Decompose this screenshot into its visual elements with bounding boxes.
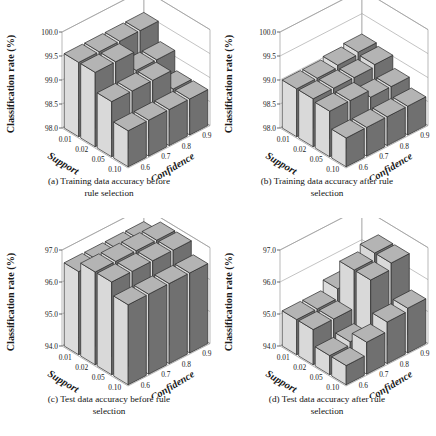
panel-b: 98.098.599.099.5100.0Classification rate…	[218, 0, 436, 218]
plot-b: 98.098.599.099.5100.0Classification rate…	[218, 0, 436, 180]
confidence-tick-label: 0.8	[400, 142, 410, 151]
support-tick-label: 0.02	[75, 363, 88, 372]
bar-face-left	[282, 80, 297, 137]
bar-face-left	[64, 263, 79, 355]
y-tick-label: 94.0	[263, 342, 276, 351]
bar-face-right	[190, 264, 208, 353]
y-tick-label: 96.0	[263, 278, 276, 287]
y-axis: 98.098.599.099.5100.0	[41, 28, 62, 133]
bar3d-canvas-b: 98.098.599.099.5100.0Classification rate…	[218, 0, 436, 180]
support-tick-label: 0.01	[59, 135, 72, 144]
confidence-tick-label: 0.7	[379, 370, 389, 379]
y-axis-title: Classification rate (%)	[223, 35, 235, 133]
support-tick-label: 0.05	[310, 155, 323, 164]
y-tick-label: 100.0	[41, 28, 58, 37]
confidence-tick-label: 0.6	[359, 163, 369, 172]
figure-3d-bar-grid: 98.098.599.099.5100.0Classification rate…	[0, 0, 436, 436]
bar-3d	[114, 287, 147, 385]
y-tick-label: 96.0	[45, 278, 58, 287]
caption-d-line1: (d) Test data accuracy after rule	[269, 394, 385, 404]
y-axis: 98.098.599.099.5100.0	[259, 28, 280, 133]
bar-face-right	[169, 274, 187, 363]
y-tick-label: 99.5	[263, 52, 276, 61]
confidence-tick-label: 0.7	[161, 152, 171, 161]
confidence-tick-label: 0.7	[161, 370, 171, 379]
plot-c: 94.095.096.097.0Classification rate (%)0…	[0, 218, 218, 398]
support-tick-label: 0.10	[326, 383, 339, 392]
panel-d: 94.095.096.097.0Classification rate (%)0…	[218, 218, 436, 436]
bar3d-canvas-d: 94.095.096.097.0Classification rate (%)0…	[218, 218, 436, 398]
caption-b-line2: selection	[311, 188, 344, 198]
bar-face-left	[114, 296, 129, 385]
y-tick-label: 95.0	[263, 310, 276, 319]
caption-b: (b) Training data accuracy after rule se…	[222, 176, 432, 199]
confidence-tick-label: 0.6	[359, 381, 369, 390]
confidence-tick-label: 0.8	[182, 360, 192, 369]
confidence-tick-label: 0.8	[182, 142, 192, 151]
y-tick-label: 98.0	[45, 124, 58, 133]
support-tick-label: 0.01	[59, 353, 72, 362]
plot-d: 94.095.096.097.0Classification rate (%)0…	[218, 218, 436, 398]
plot-a: 98.098.599.099.5100.0Classification rate…	[0, 0, 218, 180]
bar-3d	[114, 113, 147, 167]
support-tick-label: 0.05	[92, 373, 105, 382]
caption-c: (c) Test data accuracy before rule selec…	[4, 394, 214, 417]
caption-c-line2: selection	[93, 406, 126, 416]
bar-face-right	[128, 295, 146, 384]
bar-face-left	[299, 90, 314, 147]
support-tick-label: 0.02	[293, 363, 306, 372]
y-axis-title: Classification rate (%)	[5, 35, 17, 133]
bar-face-left	[81, 64, 96, 147]
confidence-tick-label: 0.7	[379, 152, 389, 161]
support-tick-label: 0.05	[92, 155, 105, 164]
bar-face-left	[97, 273, 112, 375]
support-tick-label: 0.01	[277, 353, 290, 362]
bar-face-right	[149, 285, 167, 374]
caption-b-line1: (b) Training data accuracy after rule	[261, 176, 393, 186]
confidence-tick-label: 0.6	[141, 163, 151, 172]
y-tick-label: 98.5	[45, 100, 58, 109]
support-tick-label: 0.02	[75, 145, 88, 154]
confidence-tick-label: 0.6	[141, 381, 151, 390]
caption-c-line1: (c) Test data accuracy before rule	[48, 394, 170, 404]
confidence-tick-label: 0.8	[400, 360, 410, 369]
bar-face-left	[81, 263, 96, 365]
support-tick-label: 0.10	[326, 165, 339, 174]
bar-face-left	[315, 102, 330, 156]
caption-a: (a) Training data accuracy before rule s…	[4, 176, 214, 199]
y-tick-label: 97.0	[263, 246, 276, 255]
support-tick-label: 0.01	[277, 135, 290, 144]
y-tick-label: 98.5	[263, 100, 276, 109]
panel-c: 94.095.096.097.0Classification rate (%)0…	[0, 218, 218, 436]
y-axis: 94.095.096.097.0	[263, 246, 280, 351]
y-tick-label: 99.0	[263, 76, 276, 85]
confidence-tick-label: 0.9	[420, 349, 430, 358]
caption-d: (d) Test data accuracy after rule select…	[222, 394, 432, 417]
support-tick-label: 0.05	[310, 373, 323, 382]
y-tick-label: 97.0	[45, 246, 58, 255]
caption-a-line2: rule selection	[84, 188, 133, 198]
support-tick-label: 0.10	[108, 165, 121, 174]
y-tick-label: 94.0	[45, 342, 58, 351]
bar3d-canvas-c: 94.095.096.097.0Classification rate (%)0…	[0, 218, 218, 398]
support-tick-label: 0.10	[108, 383, 121, 392]
y-axis-title: Classification rate (%)	[5, 253, 17, 351]
y-tick-label: 99.0	[45, 76, 58, 85]
y-axis: 94.095.096.097.0	[45, 246, 62, 351]
y-tick-label: 99.5	[45, 52, 58, 61]
panel-a: 98.098.599.099.5100.0Classification rate…	[0, 0, 218, 218]
confidence-tick-label: 0.9	[202, 349, 212, 358]
bar-3d	[332, 120, 365, 167]
confidence-tick-label: 0.9	[202, 131, 212, 140]
caption-d-line2: selection	[311, 406, 344, 416]
confidence-tick-label: 0.9	[420, 131, 430, 140]
y-tick-label: 95.0	[45, 310, 58, 319]
y-tick-label: 98.0	[263, 124, 276, 133]
y-tick-label: 100.0	[259, 28, 276, 37]
bar3d-canvas-a: 98.098.599.099.5100.0Classification rate…	[0, 0, 218, 180]
support-tick-label: 0.02	[293, 145, 306, 154]
y-axis-title: Classification rate (%)	[223, 253, 235, 351]
caption-a-line1: (a) Training data accuracy before	[48, 176, 170, 186]
bar-face-left	[97, 93, 112, 157]
bar-face-left	[64, 54, 79, 137]
